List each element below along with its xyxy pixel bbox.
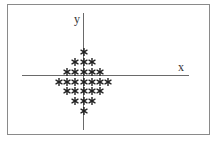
asterisk-icon [80,52,88,60]
asterisk-icon [96,81,104,89]
asterisk-icon [80,101,88,109]
asterisk-icon [55,72,63,80]
asterisk-icon [88,62,96,70]
asterisk-icon [71,62,79,70]
asterisk-icon [88,81,96,89]
asterisk-icon [80,81,88,89]
asterisk-icon [63,62,71,70]
asterisk-icon [88,52,96,60]
asterisk-icon [71,52,79,60]
asterisk-icon [80,72,88,80]
asterisk-icon [80,91,88,99]
asterisk-icon [71,91,79,99]
asterisk-icon [63,72,71,80]
asterisk-icon [71,72,79,80]
x-axis-label: x [178,61,184,73]
asterisk-icon [104,72,112,80]
asterisk-icon [63,81,71,89]
asterisk-icon [71,81,79,89]
y-axis-label: y [74,13,80,25]
asterisk-icon [80,62,88,70]
asterisk-icon [88,91,96,99]
asterisk-icon [96,62,104,70]
asterisk-icon [96,72,104,80]
asterisk-icon [88,72,96,80]
asterisk-icon [80,42,88,50]
